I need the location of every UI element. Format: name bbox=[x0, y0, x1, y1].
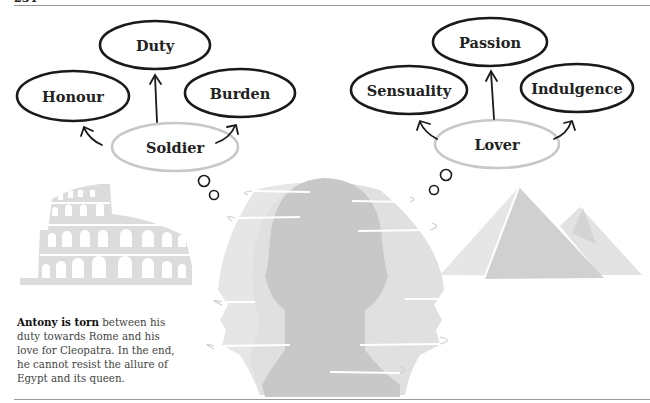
node-soldier: Soldier bbox=[112, 132, 238, 162]
node-duty: Duty bbox=[100, 30, 210, 60]
node-burden: Burden bbox=[185, 78, 295, 108]
node-passion: Passion bbox=[433, 27, 547, 57]
node-honour: Honour bbox=[17, 81, 129, 111]
caption: Antony is torn between his duty towards … bbox=[17, 315, 177, 385]
colosseum-icon bbox=[20, 184, 192, 285]
node-indulgence: Indulgence bbox=[521, 73, 633, 103]
node-sensuality: Sensuality bbox=[351, 75, 467, 105]
node-lover: Lover bbox=[435, 129, 559, 159]
pyramids-icon bbox=[440, 187, 642, 279]
bottom-rule bbox=[14, 399, 650, 400]
caption-bold: Antony is torn bbox=[17, 316, 99, 328]
heads-silhouette-icon bbox=[207, 178, 450, 397]
